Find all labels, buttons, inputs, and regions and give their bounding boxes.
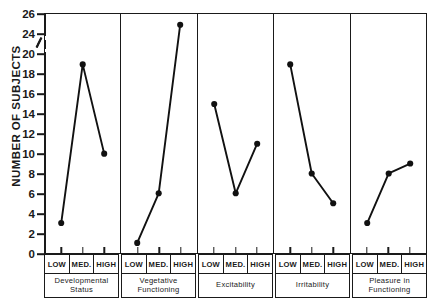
data-point[interactable] xyxy=(178,22,184,28)
panel-title: Vegetative Functioning xyxy=(122,274,195,297)
x-axis-tick xyxy=(311,247,312,254)
category-group: LOWMED.HIGHExcitability xyxy=(198,254,273,298)
y-axis-tick-label: 24 xyxy=(22,28,35,40)
data-point[interactable] xyxy=(330,200,336,206)
category-group: LOWMED.HIGHIrritability xyxy=(275,254,350,298)
data-point[interactable] xyxy=(254,141,260,147)
y-axis-tick-label: 10 xyxy=(22,148,35,160)
category-cell-high[interactable]: HIGH xyxy=(170,255,195,273)
data-point[interactable] xyxy=(287,61,293,67)
category-row: LOWMED.HIGH xyxy=(276,255,349,274)
figure: NUMBER OF SUBJECTS 024681012141618202426… xyxy=(0,0,431,303)
data-line xyxy=(290,64,333,203)
data-point[interactable] xyxy=(211,101,217,107)
data-point[interactable] xyxy=(364,220,370,226)
data-line xyxy=(138,25,181,243)
data-point[interactable] xyxy=(80,61,86,67)
x-axis-tick xyxy=(137,247,138,254)
y-axis-tick-label: 18 xyxy=(22,68,35,80)
y-axis-tick-label: 26 xyxy=(22,8,35,20)
y-axis-tick-label: 6 xyxy=(29,188,35,200)
y-axis-tick-label: 12 xyxy=(22,128,35,140)
category-cell-high[interactable]: HIGH xyxy=(247,255,272,273)
x-axis-tick xyxy=(366,247,367,254)
category-row: LOWMED.HIGH xyxy=(122,255,195,274)
category-cell-med[interactable]: MED. xyxy=(69,255,94,273)
data-point[interactable] xyxy=(407,160,413,166)
panel-title: Developmental Status xyxy=(45,274,118,297)
category-cell-low[interactable]: LOW xyxy=(199,255,223,273)
x-axis-tick xyxy=(409,247,410,254)
y-axis-tick-label: 16 xyxy=(22,88,35,100)
x-axis-tick xyxy=(61,247,62,254)
data-line xyxy=(214,104,257,193)
y-axis-tick-label: 14 xyxy=(22,108,35,120)
data-point[interactable] xyxy=(58,220,64,226)
panel-developmental-status xyxy=(45,14,120,253)
data-point[interactable] xyxy=(135,240,141,246)
x-axis-tick xyxy=(82,247,83,254)
category-cell-low[interactable]: LOW xyxy=(122,255,146,273)
category-cell-med[interactable]: MED. xyxy=(146,255,171,273)
panel-title: Pleasure in Functioning xyxy=(353,274,426,297)
x-axis-tick xyxy=(290,247,291,254)
category-row: LOWMED.HIGH xyxy=(199,255,272,274)
x-axis-tick xyxy=(256,247,257,254)
category-group: LOWMED.HIGHDevelopmental Status xyxy=(44,254,119,298)
x-axis-tick xyxy=(103,247,104,254)
plot-area xyxy=(44,13,427,254)
category-row: LOWMED.HIGH xyxy=(353,255,426,274)
x-axis-tick xyxy=(180,247,181,254)
panel-pleasure-in-functioning xyxy=(350,14,426,253)
category-cell-med[interactable]: MED. xyxy=(300,255,325,273)
category-row: LOWMED.HIGH xyxy=(45,255,118,274)
category-cell-low[interactable]: LOW xyxy=(353,255,377,273)
category-cell-med[interactable]: MED. xyxy=(377,255,402,273)
category-cell-high[interactable]: HIGH xyxy=(401,255,426,273)
x-axis-tick xyxy=(235,247,236,254)
x-axis-tick xyxy=(333,247,334,254)
category-cell-low[interactable]: LOW xyxy=(45,255,69,273)
panel-irritability xyxy=(273,14,349,253)
category-cell-high[interactable]: HIGH xyxy=(324,255,349,273)
panel-title: Irritability xyxy=(276,274,349,297)
category-cell-med[interactable]: MED. xyxy=(223,255,248,273)
y-axis-tick-label: 20 xyxy=(22,48,35,60)
y-axis-tick-label: 4 xyxy=(29,208,35,220)
panel-title: Excitability xyxy=(199,274,272,297)
y-axis-tick-label: 0 xyxy=(29,248,35,260)
category-cell-low[interactable]: LOW xyxy=(276,255,300,273)
y-axis-tick-label: 2 xyxy=(29,228,35,240)
data-point[interactable] xyxy=(309,170,315,176)
x-axis-tick xyxy=(158,247,159,254)
category-cell-high[interactable]: HIGH xyxy=(93,255,118,273)
y-axis-tick-label: 8 xyxy=(29,168,35,180)
data-point[interactable] xyxy=(232,190,238,196)
data-line xyxy=(61,64,104,223)
x-axis-tick xyxy=(213,247,214,254)
data-point[interactable] xyxy=(101,151,107,157)
x-axis-tick xyxy=(388,247,389,254)
data-point[interactable] xyxy=(385,170,391,176)
panel-vegetative-functioning xyxy=(120,14,196,253)
category-group: LOWMED.HIGHPleasure in Functioning xyxy=(352,254,427,298)
panel-excitability xyxy=(197,14,273,253)
data-point[interactable] xyxy=(156,190,162,196)
y-axis-title: NUMBER OF SUBJECTS xyxy=(10,16,22,216)
category-label-table: LOWMED.HIGHDevelopmental StatusLOWMED.HI… xyxy=(44,254,427,298)
category-group: LOWMED.HIGHVegetative Functioning xyxy=(121,254,196,298)
